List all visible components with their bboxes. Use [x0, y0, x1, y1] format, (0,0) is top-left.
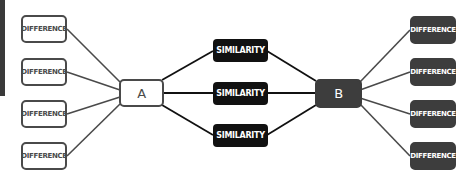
right-difference-node-2: DIFFERENCE: [410, 58, 456, 86]
difference-label: DIFFERENCE: [410, 68, 456, 76]
right-difference-node-3: DIFFERENCE: [410, 100, 456, 128]
difference-label: DIFFERENCE: [410, 26, 456, 34]
similarity-node-2: SIMILARITY: [213, 82, 268, 105]
difference-label: DIFFERENCE: [410, 110, 456, 118]
similarity-node-3: SIMILARITY: [213, 124, 268, 147]
difference-label: DIFFERENCE: [21, 25, 67, 33]
node-a: A: [119, 79, 164, 107]
difference-label: DIFFERENCE: [21, 68, 67, 76]
similarity-label: SIMILARITY: [216, 131, 264, 140]
left-difference-node-1: DIFFERENCE: [21, 15, 67, 43]
left-difference-node-2: DIFFERENCE: [21, 58, 67, 86]
difference-label: DIFFERENCE: [21, 152, 67, 160]
right-difference-node-4: DIFFERENCE: [410, 142, 456, 170]
difference-label: DIFFERENCE: [21, 110, 67, 118]
node-a-label: A: [137, 86, 146, 101]
similarity-label: SIMILARITY: [216, 46, 264, 55]
left-difference-node-3: DIFFERENCE: [21, 100, 67, 128]
node-b-label: B: [334, 86, 343, 101]
right-difference-node-1: DIFFERENCE: [410, 16, 456, 44]
left-difference-node-4: DIFFERENCE: [21, 142, 67, 170]
difference-label: DIFFERENCE: [410, 152, 456, 160]
similarity-label: SIMILARITY: [216, 89, 264, 98]
similarity-node-1: SIMILARITY: [213, 39, 268, 62]
node-b: B: [315, 79, 362, 108]
